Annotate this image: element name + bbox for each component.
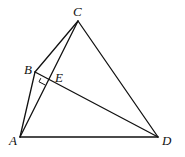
segment-bd <box>35 72 158 137</box>
right-angle-marker <box>39 78 45 85</box>
label-b: B <box>24 62 32 77</box>
segment-ab <box>20 72 35 137</box>
label-a: A <box>8 133 17 148</box>
label-d: D <box>161 133 172 148</box>
label-c: C <box>73 4 82 19</box>
label-e: E <box>54 70 63 85</box>
geometry-figure: C B E A D <box>0 0 185 157</box>
segment-cd <box>78 21 158 137</box>
